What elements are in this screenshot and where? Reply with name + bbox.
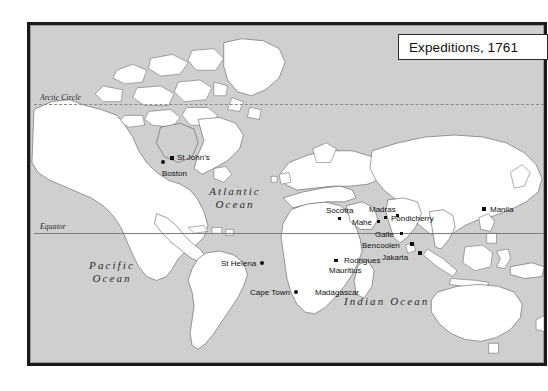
bencoolen-marker-icon bbox=[410, 242, 414, 246]
jakarta-label: Jakarta bbox=[382, 253, 408, 262]
map-title: Expeditions, 1761 bbox=[409, 40, 518, 55]
manila-marker-icon bbox=[482, 207, 486, 211]
st-helena-marker-icon bbox=[260, 261, 264, 265]
socotra-marker-icon bbox=[338, 217, 341, 220]
jakarta-marker-icon bbox=[418, 251, 422, 255]
arctic-circle-line bbox=[34, 104, 544, 105]
atlantic-ocean-line1: Atlantic bbox=[209, 185, 261, 197]
st-johns-label: St John's bbox=[177, 153, 210, 162]
bencoolen-label: Bencoolen bbox=[362, 241, 400, 250]
pacific-ocean-line1: Pacific bbox=[89, 259, 135, 271]
boston-marker-icon bbox=[161, 160, 165, 164]
arctic-circle-label: Arctic Circle bbox=[40, 93, 81, 102]
mauritius-label: Mauritius bbox=[329, 266, 361, 275]
cape-town-label: Cape Town bbox=[250, 288, 290, 297]
atlantic-ocean-label: Atlantic Ocean bbox=[190, 185, 280, 211]
equator-label: Equator bbox=[40, 222, 66, 231]
manila-label: Manila bbox=[490, 205, 514, 214]
map-title-box: Expeditions, 1761 bbox=[398, 34, 548, 60]
equator-line bbox=[34, 233, 544, 234]
map-frame: .land { fill:#ffffff; stroke:#5a5a5a; st… bbox=[27, 22, 547, 366]
st-johns-marker-icon bbox=[170, 156, 174, 160]
st-helena-label: St Helena bbox=[221, 259, 256, 268]
madras-label: Madras bbox=[369, 205, 396, 214]
socotra-label: Socotra bbox=[326, 206, 354, 215]
pondicherry-marker-icon bbox=[384, 216, 387, 219]
boston-label: Boston bbox=[162, 169, 187, 178]
pacific-ocean-label: Pacific Ocean bbox=[72, 259, 152, 285]
atlantic-ocean-line2: Ocean bbox=[215, 198, 254, 210]
rodrigues-label: Rodrigues bbox=[344, 256, 380, 265]
mauritius-marker-icon bbox=[334, 259, 337, 262]
madagascar-label: Madagascar bbox=[315, 288, 359, 297]
mahe-marker-icon bbox=[377, 220, 380, 223]
mahe-label: Mahé bbox=[352, 218, 372, 227]
world-coastlines: .land { fill:#ffffff; stroke:#5a5a5a; st… bbox=[30, 25, 544, 363]
galle-marker-icon bbox=[400, 232, 403, 235]
cape-town-marker-icon bbox=[294, 290, 298, 294]
pondicherry-label: Pondicherry bbox=[391, 214, 434, 223]
galle-label: Galle bbox=[375, 230, 394, 239]
pacific-ocean-line2: Ocean bbox=[92, 272, 131, 284]
